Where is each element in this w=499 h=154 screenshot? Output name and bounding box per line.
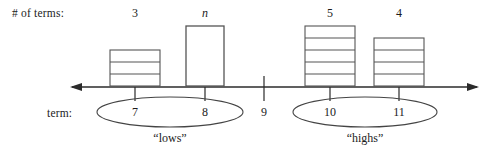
- group-ellipse-lows: [97, 97, 243, 127]
- stack-bar-term-7: [110, 50, 160, 86]
- stack-bar-term-11: [374, 38, 424, 86]
- axis-arrow-right-icon: [467, 83, 479, 91]
- unknown-box-term-8: [186, 26, 224, 86]
- number-line-diagram: # of terms: term: 3 n 5 4 ? 7 8 9 10 11 …: [0, 0, 499, 154]
- stack-bar-term-10: [305, 26, 355, 86]
- diagram-artwork: [0, 0, 499, 154]
- group-ellipse-highs: [293, 97, 437, 127]
- axis-arrow-left-icon: [70, 83, 82, 91]
